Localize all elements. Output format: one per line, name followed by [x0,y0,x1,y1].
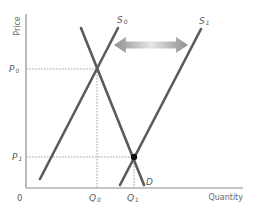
s1-label: S1 [199,16,210,26]
y-axis-label: Price [13,16,22,36]
double-arrow-icon [114,37,188,53]
p0-label: P0 [9,64,19,74]
supply-demand-chart: Price P0 P1 0 Q0 Q1 Quantity S0 S1 D [0,0,257,209]
supply-curve-s0 [40,28,118,179]
d-label: D [146,177,153,187]
origin-label: 0 [17,193,22,203]
demand-curve [81,28,144,185]
q1-label: Q1 [127,193,139,203]
q0-label: Q0 [89,193,101,203]
p1-label: P1 [12,152,22,162]
equilibrium-point [131,154,137,160]
supply-curve-s1 [120,29,201,185]
s0-label: S0 [117,15,128,25]
chart-canvas: Price P0 P1 0 Q0 Q1 Quantity S0 S1 D [0,0,257,209]
x-axis-label: Quantity [208,193,243,202]
